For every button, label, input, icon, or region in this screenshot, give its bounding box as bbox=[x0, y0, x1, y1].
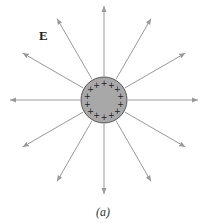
field-line-arrow bbox=[125, 53, 186, 88]
plus-charge-icon: + bbox=[101, 79, 108, 88]
field-line-arrow bbox=[125, 112, 186, 147]
field-line-arrow bbox=[116, 121, 151, 182]
plus-charge-icon: + bbox=[101, 113, 108, 122]
electric-field-diagram: ++++++++++++++ bbox=[0, 0, 206, 223]
field-line-arrow bbox=[57, 19, 92, 80]
field-label: E bbox=[39, 28, 48, 44]
field-line-arrow bbox=[57, 121, 92, 182]
field-line-arrow bbox=[23, 53, 84, 88]
plus-charge-icon: + bbox=[114, 107, 121, 116]
plus-charge-icon: + bbox=[93, 81, 100, 90]
figure-caption: (a) bbox=[0, 205, 206, 220]
plus-charge-icon: + bbox=[108, 111, 115, 120]
plus-charge-icon: + bbox=[93, 111, 100, 120]
field-line-arrow bbox=[23, 112, 84, 147]
field-line-arrow bbox=[116, 19, 151, 80]
